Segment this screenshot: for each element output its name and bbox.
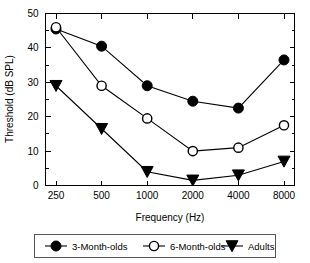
y-tick-label: 20 [27, 111, 39, 122]
legend-marker [51, 241, 61, 251]
chart-figure: 01020304050 2505001000200040008000 Frequ… [0, 0, 310, 263]
series-adults [50, 80, 290, 186]
legend-marker [149, 241, 158, 250]
series-3-month-olds [51, 24, 289, 113]
x-tick-label: 4000 [227, 190, 250, 201]
data-point-marker [279, 55, 289, 65]
chart-legend: 3-Month-olds6-Month-oldsAdults [35, 235, 276, 258]
data-point-marker [187, 175, 199, 186]
data-point-marker [141, 166, 153, 177]
x-tick-label: 500 [93, 190, 110, 201]
data-point-marker [188, 147, 197, 156]
x-tick-label: 8000 [273, 190, 296, 201]
series-polyline [56, 29, 284, 108]
y-tick-label: 10 [27, 146, 39, 157]
y-tick-label: 0 [33, 180, 39, 191]
legend-item-3-month-olds: 3-Month-olds [45, 241, 128, 252]
data-point-marker [234, 143, 243, 152]
x-axis: 2505001000200040008000 [48, 14, 296, 201]
x-tick-label: 1000 [136, 190, 159, 201]
data-point-marker [233, 103, 243, 113]
data-point-marker [278, 156, 290, 167]
series-polyline [56, 86, 284, 181]
legend-item-label: 3-Month-olds [72, 241, 128, 252]
legend-item-6-month-olds: 6-Month-olds [143, 241, 226, 252]
y-axis-title: Threshold (dB SPL) [4, 55, 15, 143]
data-point-marker [97, 81, 106, 90]
data-series-layer [50, 23, 290, 186]
y-tick-label: 30 [27, 77, 39, 88]
y-tick-label: 50 [27, 8, 39, 19]
x-tick-label: 250 [48, 190, 65, 201]
x-axis-title: Frequency (Hz) [136, 212, 205, 223]
threshold-vs-frequency-chart: 01020304050 2505001000200040008000 Frequ… [0, 0, 310, 263]
legend-item-label: Adults [248, 241, 275, 252]
x-tick-label: 2000 [182, 190, 205, 201]
y-axis: 01020304050 [27, 8, 294, 191]
data-point-marker [51, 23, 60, 32]
y-tick-label: 40 [27, 42, 39, 53]
series-6-month-olds [51, 23, 288, 156]
data-point-marker [142, 81, 152, 91]
data-point-marker [143, 114, 152, 123]
data-point-marker [97, 41, 107, 51]
series-polyline [56, 27, 284, 151]
data-point-marker [188, 96, 198, 106]
legend-item-label: 6-Month-olds [170, 241, 226, 252]
data-point-marker [279, 121, 288, 130]
